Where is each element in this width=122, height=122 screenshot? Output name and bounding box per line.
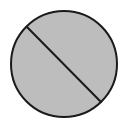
circle-diagram <box>0 0 122 122</box>
diagram-canvas <box>0 0 122 122</box>
